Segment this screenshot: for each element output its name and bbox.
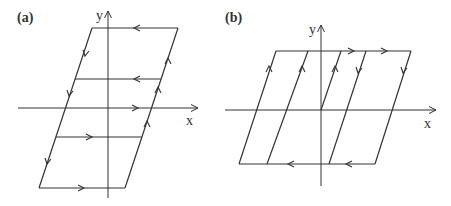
figure-canvas: (a) y x (0, 0, 451, 206)
panel-a: (a) y x (17, 8, 198, 198)
y-axis-label: y (309, 22, 316, 37)
hysteresis-loop-b (239, 51, 411, 164)
y-axis-label: y (96, 8, 103, 23)
x-axis-label: x (424, 116, 431, 131)
panel-a-label: (a) (17, 10, 34, 26)
panel-b: (b) y x (225, 10, 436, 186)
panel-b-label: (b) (225, 10, 242, 26)
x-axis-label: x (186, 113, 193, 128)
